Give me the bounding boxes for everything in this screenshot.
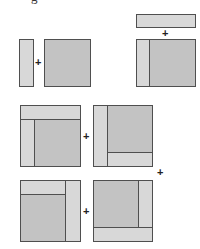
plus-sign: +	[157, 167, 163, 178]
square-with-right-and-bottom-strips	[93, 180, 153, 242]
left-strip	[137, 40, 150, 86]
plus-sign: +	[35, 57, 41, 68]
header-text-fragment: g	[31, 0, 38, 3]
square-with-top-and-right-strips	[20, 180, 81, 242]
bottom-strip	[108, 152, 152, 166]
top-strip	[21, 106, 80, 120]
vertical-strip	[19, 39, 34, 87]
square-with-top-and-left-strips	[20, 105, 81, 167]
plus-sign: +	[83, 206, 89, 217]
top-strip	[21, 181, 65, 195]
bottom-strip	[94, 227, 152, 241]
plus-sign: +	[162, 28, 168, 39]
left-strip	[21, 120, 35, 166]
horizontal-strip	[136, 14, 196, 28]
plus-sign: +	[83, 131, 89, 142]
right-strip	[138, 181, 152, 227]
square	[44, 39, 91, 87]
right-strip	[65, 181, 80, 241]
left-strip	[94, 106, 108, 166]
square-with-left-and-bottom-strips	[93, 105, 153, 167]
square-with-left-strip	[136, 39, 196, 87]
